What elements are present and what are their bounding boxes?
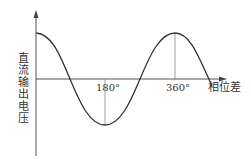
y-axis-arrow-icon	[34, 10, 39, 18]
diagram-canvas: 180° 360° 相位差	[0, 0, 251, 159]
tick-label-180: 180°	[96, 82, 120, 93]
tick-label-360: 360°	[166, 82, 190, 93]
phase-detector-diagram: 180° 360° 相位差 直流输出电压	[0, 0, 251, 159]
y-axis-label: 直流输出电压	[14, 52, 30, 124]
x-axis-label: 相位差	[208, 80, 241, 94]
